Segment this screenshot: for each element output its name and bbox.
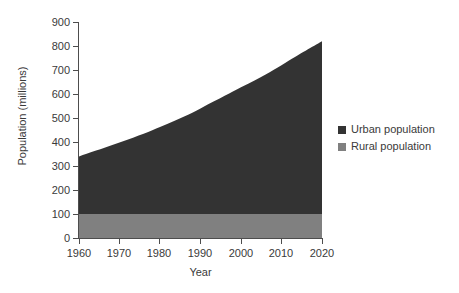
x-tick-label: 2020 xyxy=(302,247,342,259)
plot-area xyxy=(79,22,322,238)
x-tick-mark xyxy=(281,239,282,244)
x-tick-mark xyxy=(79,239,80,244)
x-tick-mark xyxy=(322,239,323,244)
x-tick-label: 1960 xyxy=(59,247,99,259)
x-tick-mark xyxy=(241,239,242,244)
y-tick-label: 0 xyxy=(30,233,70,244)
y-tick-label: 400 xyxy=(30,137,70,148)
legend-swatch-icon xyxy=(338,126,346,134)
x-tick-label: 1970 xyxy=(99,247,139,259)
x-tick-label: 1980 xyxy=(139,247,179,259)
y-tick-label: 800 xyxy=(30,41,70,52)
y-tick-label: 300 xyxy=(30,161,70,172)
legend-label: Urban population xyxy=(351,124,435,135)
x-tick-mark xyxy=(119,239,120,244)
x-tick-mark xyxy=(200,239,201,244)
y-axis-title: Population (millions) xyxy=(16,36,28,196)
chart-screenshot: 900 800 700 600 500 400 300 200 100 0 xyxy=(0,0,459,293)
y-tick-label: 600 xyxy=(30,89,70,100)
y-tick-label: 200 xyxy=(30,185,70,196)
legend-item-rural-population: Rural population xyxy=(338,139,435,154)
legend-swatch-icon xyxy=(338,143,346,151)
legend-label: Rural population xyxy=(351,141,431,152)
area-chart-svg xyxy=(79,22,322,238)
y-axis-line xyxy=(78,22,79,239)
y-tick-label: 700 xyxy=(30,65,70,76)
x-tick-label: 2000 xyxy=(221,247,261,259)
legend-item-urban-population: Urban population xyxy=(338,122,435,137)
y-tick-label: 500 xyxy=(30,113,70,124)
x-tick-label: 2010 xyxy=(261,247,301,259)
x-tick-mark xyxy=(159,239,160,244)
urban-population-area xyxy=(79,41,322,238)
x-tick-label: 1990 xyxy=(180,247,220,259)
chart-legend: Urban population Rural population xyxy=(338,122,435,156)
y-tick-label: 900 xyxy=(30,17,70,28)
x-axis-title: Year xyxy=(78,266,323,278)
y-tick-label: 100 xyxy=(30,209,70,220)
rural-population-area xyxy=(79,214,322,238)
